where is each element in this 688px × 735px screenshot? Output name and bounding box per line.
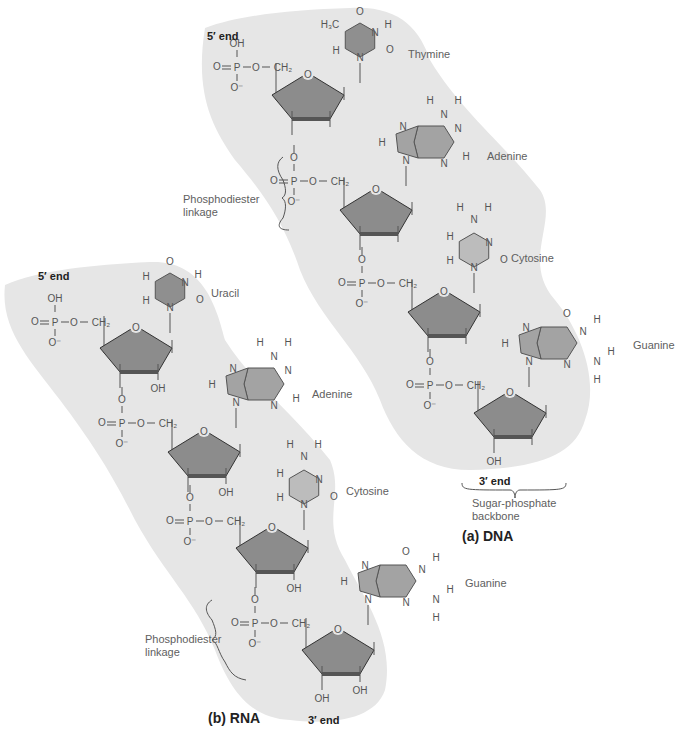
amino-h-label: H (456, 202, 463, 213)
amino-h-label: H (446, 584, 453, 595)
ring-oxygen-label: O (506, 387, 514, 398)
nucleic-acid-diagram: OHOPOCH₂O⁻ONNOOHH₃CHOOPOCH₂O⁻ONNHNNHNHHO… (0, 0, 688, 735)
c6-hydrogen-label: H (332, 45, 339, 56)
phosphate-p-label: P (52, 317, 59, 328)
phosphate-o-label: O (231, 617, 239, 628)
ch2-label: CH₂ (274, 62, 292, 73)
dna-base-label-thymine: Thymine (408, 48, 450, 61)
backbone-brace (462, 483, 566, 498)
amino-h-label: H (593, 374, 600, 385)
sugar-2prime-oh-label: OH (353, 685, 368, 696)
phosphate-ester-o-label: O (252, 62, 260, 73)
sugar-3prime-oh-label: OH (487, 456, 502, 467)
amino-h-label: H (607, 346, 614, 357)
phosphate-ominus-label: O⁻ (184, 536, 197, 547)
phosphate-ominus-label: O⁻ (249, 638, 262, 649)
ch2-label: CH₂ (331, 176, 349, 187)
c2-hydrogen-label: H (462, 151, 469, 162)
n3-label: N (270, 400, 277, 411)
phosphate-bridge-o-label: O (186, 492, 194, 503)
ch2-label: CH₂ (399, 278, 417, 289)
c4-oxygen-label: O (166, 256, 174, 267)
ch2-label: CH₂ (467, 380, 485, 391)
purine-six-ring (376, 565, 416, 597)
amino-h-label: H (432, 612, 439, 623)
c6-oxygen-label: O (402, 546, 410, 557)
ring-oxygen-label: O (334, 624, 342, 635)
rna-base-label-cytosine: Cytosine (346, 485, 389, 498)
phosphate-ester-o-label: O (70, 317, 78, 328)
phosphate-ester-o-label: O (205, 516, 213, 527)
n1-hydrogen-label: H (432, 552, 439, 563)
amino-n-label: N (432, 594, 439, 605)
dna-base-label-guanine: Guanine (633, 339, 675, 352)
sugar-3prime-oh-label: OH (315, 693, 330, 704)
c2-oxygen-label: O (330, 491, 338, 502)
c5-hydrogen-label: H (276, 468, 283, 479)
c6-hydrogen-label: H (446, 255, 453, 266)
methyl-label: H₃C (321, 19, 340, 30)
sugar-2prime-oh-label: OH (219, 487, 234, 498)
n1-label: N (579, 326, 586, 337)
c8-hydrogen-label: H (501, 338, 508, 349)
dna-linkage-label-line1: Phosphodiester (183, 193, 259, 206)
phosphate-bridge-o-label: O (290, 152, 298, 163)
amino-n-label: N (470, 214, 477, 225)
phosphate-ester-o-label: O (445, 380, 453, 391)
phosphate-o-label: O (270, 175, 278, 186)
ring-n3-label: N (371, 27, 378, 38)
dna-5prime-end-label: 5′ end (207, 30, 238, 43)
amino-h-label: H (484, 202, 491, 213)
c6-hydrogen-label: H (276, 492, 283, 503)
n9-label: N (364, 594, 371, 605)
ring-n3-label: N (485, 237, 492, 248)
ring-oxygen-label: O (200, 426, 208, 437)
n3-hydrogen-label: H (384, 19, 391, 30)
n7-label: N (522, 322, 529, 333)
c2-oxygen-label: O (196, 294, 204, 305)
c5-hydrogen-label: H (446, 231, 453, 242)
ring-oxygen-label: O (440, 286, 448, 297)
n3-hydrogen-label: H (194, 269, 201, 280)
amino-h-label: H (426, 95, 433, 106)
c2-oxygen-label: O (386, 44, 394, 55)
dna-backbone-label-line1: Sugar-phosphate (472, 497, 556, 510)
c8-hydrogen-label: H (340, 576, 347, 587)
phosphate-bridge-o-label: O (426, 356, 434, 367)
amino-n-label: N (593, 356, 600, 367)
amino-n-label: N (300, 451, 307, 462)
phosphate-o-label: O (406, 379, 414, 390)
phosphate-p-label: P (291, 176, 298, 187)
phosphate-bridge-o-label: O (118, 394, 126, 405)
dna-backbone-label-line2: backbone (472, 510, 520, 523)
c5-hydrogen-label: H (142, 271, 149, 282)
phosphate-bridge-o-label: O (358, 254, 366, 265)
dna-linkage-label-line2: linkage (183, 206, 218, 219)
phosphate-p-label: P (427, 380, 434, 391)
rna-linkage-label-line2: linkage (145, 646, 180, 659)
n7-label: N (361, 560, 368, 571)
n7-label: N (229, 363, 236, 374)
amino-n-label: N (270, 351, 277, 362)
c2-oxygen-label: O (500, 254, 508, 265)
n3-label: N (440, 158, 447, 169)
phosphate-o-label: O (31, 316, 39, 327)
ring-oxygen-label: O (304, 69, 312, 80)
rna-panel-title: (b) RNA (208, 710, 260, 726)
dna-base-label-adenine: Adenine (487, 150, 527, 163)
phosphate-p-label: P (187, 516, 194, 527)
n1-label: N (418, 564, 425, 575)
phosphate-ominus-label: O⁻ (356, 298, 369, 309)
phosphate-ester-o-label: O (309, 176, 317, 187)
phosphate-p-label: P (234, 62, 241, 73)
purine-six-ring (244, 368, 284, 400)
phosphate-p-label: P (119, 418, 126, 429)
ring-n1-label: N (470, 262, 477, 273)
phosphate-ester-o-label: O (270, 618, 278, 629)
amino-h-label: H (284, 337, 291, 348)
rna-base-label-adenine: Adenine (312, 388, 352, 401)
phosphate-ominus-label: O⁻ (231, 82, 244, 93)
dna-base-label-cytosine: Cytosine (511, 252, 554, 265)
phosphate-o-label: O (338, 277, 346, 288)
phosphate-oh-label: OH (48, 293, 63, 304)
